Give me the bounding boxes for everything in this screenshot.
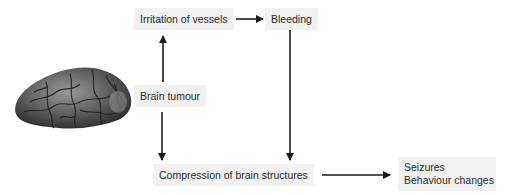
outcome-seizures: Seizures <box>404 161 490 174</box>
node-brain-tumour: Brain tumour <box>134 85 206 107</box>
node-label: Bleeding <box>271 13 312 25</box>
outcome-behaviour-changes: Behaviour changes <box>404 174 490 187</box>
node-outcomes: Seizures Behaviour changes <box>398 157 496 191</box>
node-label: Compression of brain structures <box>159 169 308 181</box>
node-bleeding: Bleeding <box>265 8 318 30</box>
node-label: Irritation of vessels <box>140 13 228 25</box>
node-irritation-of-vessels: Irritation of vessels <box>134 8 234 30</box>
node-label: Brain tumour <box>140 90 200 102</box>
node-compression-of-brain-structures: Compression of brain structures <box>153 164 314 186</box>
